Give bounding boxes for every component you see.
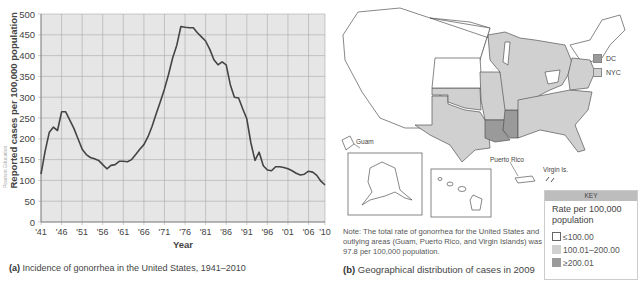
y-tick-label: 0 <box>30 217 35 228</box>
key-swatch-low <box>552 232 561 241</box>
y-tick-label: 100 <box>19 175 35 186</box>
y-tick-label: 300 <box>19 92 35 103</box>
y-tick-label: 350 <box>19 71 35 82</box>
x-tick-label: '61 <box>117 227 129 237</box>
x-tick-label: '56 <box>97 227 109 237</box>
key-label-mid: 100.01–200.00 <box>563 245 620 255</box>
x-axis-ticks: '41'46'51'56'61'66'71'76'81'86'91'96'01'… <box>35 227 331 237</box>
key-item-mid: 100.01–200.00 <box>545 243 637 256</box>
legend-dc: DC <box>593 51 621 65</box>
x-tick-label: '51 <box>76 227 88 237</box>
x-tick-label: '71 <box>159 227 171 237</box>
y-tick-label: 500 <box>19 9 35 20</box>
caption-text-b: Geographical distribution of cases in 20… <box>358 264 535 275</box>
key-label-low: ≤100.00 <box>563 232 594 242</box>
credit-text: Pearson Education <box>2 118 8 188</box>
x-tick-label: '81 <box>200 227 212 237</box>
x-tick-label: '46 <box>56 227 68 237</box>
label-guam: Guam <box>356 138 374 145</box>
y-tick-label: 250 <box>19 113 35 124</box>
map-note: Note: The total rate of gonorrhea for th… <box>343 227 543 257</box>
hawaii-inset <box>431 169 491 217</box>
label-puerto-rico: Puerto Rico <box>490 156 524 163</box>
x-tick-label: '86 <box>220 227 232 237</box>
nyc-swatch <box>593 68 602 77</box>
y-tick-label: 150 <box>19 154 35 165</box>
dc-nyc-legend: DC NYC <box>593 51 621 79</box>
panel-label-a: (a) <box>9 263 20 273</box>
caption-text-a: Incidence of gonorrhea in the United Sta… <box>23 263 246 273</box>
dc-label: DC <box>606 55 616 62</box>
nyc-label: NYC <box>606 69 621 76</box>
x-tick-label: '41 <box>35 227 47 237</box>
x-tick-label: '01 <box>282 227 294 237</box>
key-swatch-high <box>552 258 561 267</box>
x-tick-label: '66 <box>138 227 150 237</box>
y-tick-label: 50 <box>24 196 35 207</box>
label-virgin-islands: Virgin Is. <box>543 166 568 173</box>
chart-caption: (a) Incidence of gonorrhea in the United… <box>9 263 246 273</box>
chart-panel-a: 050100150200250300350400450500 '41'46'51… <box>0 0 340 289</box>
y-tick-label: 400 <box>19 50 35 61</box>
x-tick-label: '76 <box>179 227 191 237</box>
panel-label-b: (b) <box>343 264 355 275</box>
state-region-southeast <box>518 90 592 152</box>
key-label-high: ≥200.01 <box>563 258 594 268</box>
key-title: Rate per 100,000 population <box>545 201 637 226</box>
map-key: KEY Rate per 100,000 population ≤100.00 … <box>544 190 638 280</box>
x-tick-label: '10 <box>319 227 331 237</box>
state-region-ks-ne <box>432 58 482 88</box>
key-swatch-mid <box>552 245 561 254</box>
legend-nyc: NYC <box>593 65 621 79</box>
y-tick-label: 450 <box>19 29 35 40</box>
state-wv <box>545 70 560 84</box>
guam-shape <box>342 136 354 150</box>
key-item-low: ≤100.00 <box>545 230 637 243</box>
key-item-high: ≥200.01 <box>545 256 637 269</box>
key-header: KEY <box>545 191 637 201</box>
y-tick-label: 200 <box>19 133 35 144</box>
y-axis-ticks: 050100150200250300350400450500 <box>19 9 35 228</box>
state-ny-mid-atl <box>568 58 595 90</box>
puerto-rico-shape <box>515 176 535 183</box>
dc-swatch <box>593 54 602 63</box>
x-axis-label: Year <box>173 239 193 250</box>
x-tick-label: '91 <box>241 227 253 237</box>
y-axis-label: Reported cases per 100,000 population <box>8 59 19 189</box>
line-chart: 050100150200250300350400450500 '41'46'51… <box>0 0 340 289</box>
map-caption: (b) Geographical distribution of cases i… <box>343 264 535 275</box>
x-tick-label: '06 <box>303 227 315 237</box>
x-tick-label: '96 <box>262 227 274 237</box>
